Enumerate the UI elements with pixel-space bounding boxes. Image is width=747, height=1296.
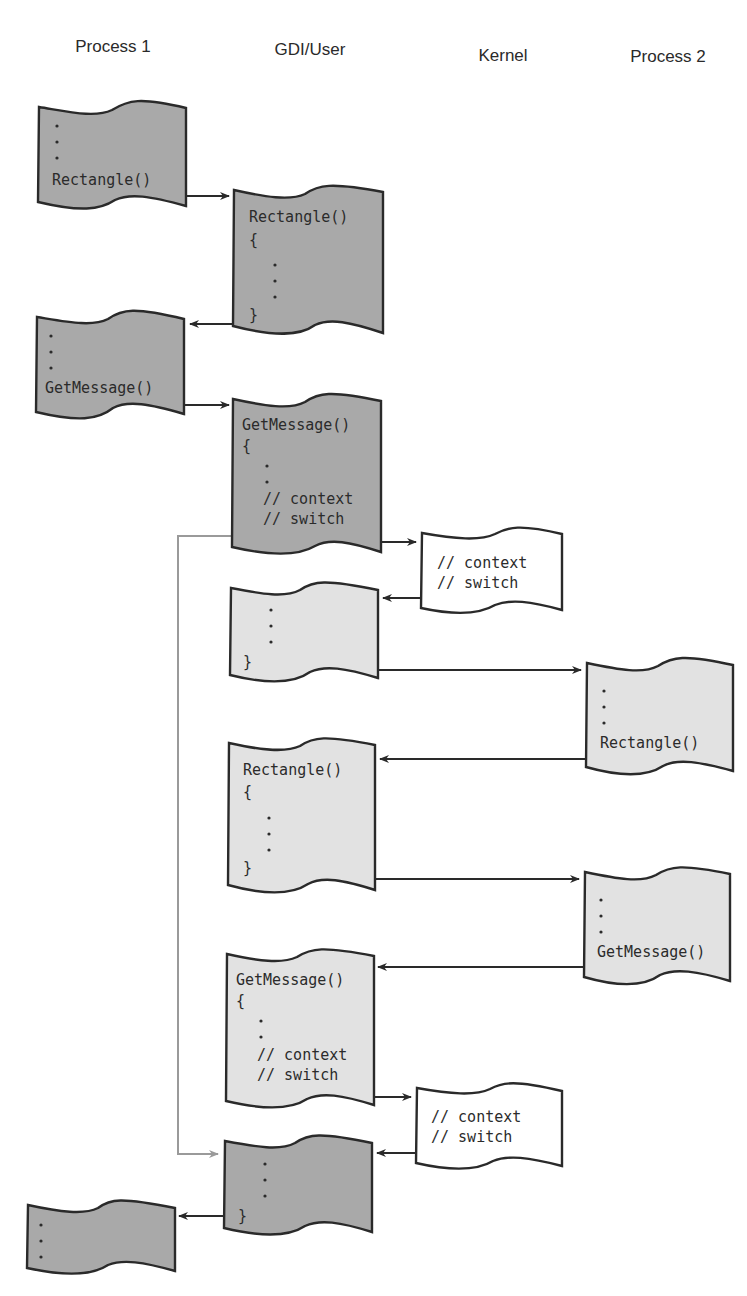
code-line: {: [242, 437, 251, 455]
code-line: Rectangle(): [52, 171, 151, 189]
code-line: // switch: [263, 510, 344, 528]
code-line: {: [249, 231, 258, 249]
code-line: Rectangle(): [243, 761, 342, 779]
code-line: }: [238, 1207, 247, 1225]
node-gdi-getmessage-2: GetMessage() { // context // switch: [226, 949, 374, 1107]
code-line: // context: [263, 490, 353, 508]
code-line: }: [243, 653, 252, 671]
column-header-kernel: Kernel: [478, 46, 527, 65]
code-line: }: [243, 859, 252, 877]
node-gdi-return-p2: }: [230, 582, 378, 681]
code-line: // context: [257, 1046, 347, 1064]
node-gdi-rectangle-2: Rectangle() { }: [228, 738, 375, 892]
code-line: GetMessage(): [597, 943, 705, 961]
node-p1-resume: [27, 1200, 175, 1273]
code-line: // switch: [257, 1066, 338, 1084]
code-line: {: [236, 992, 245, 1010]
code-line: // switch: [431, 1128, 512, 1146]
code-line: // context: [437, 554, 527, 572]
column-header-gdi-user: GDI/User: [275, 40, 346, 59]
code-line: // switch: [437, 574, 518, 592]
node-p1-call-rectangle: Rectangle(): [38, 101, 186, 209]
node-gdi-rectangle-1: Rectangle() { }: [233, 186, 383, 334]
code-line: }: [249, 306, 258, 324]
node-gdi-getmessage-1: GetMessage() { // context // switch: [232, 394, 381, 554]
node-p1-call-getmessage: GetMessage(): [36, 311, 184, 419]
gray-connector-arrow: [178, 536, 232, 1154]
code-line: Rectangle(): [600, 734, 699, 752]
code-line: GetMessage(): [236, 971, 344, 989]
code-line: {: [243, 783, 252, 801]
diagram-canvas: Process 1 GDI/User Kernel Process 2 Rect…: [0, 0, 747, 1296]
node-kernel-context-switch-1: // context // switch: [421, 528, 562, 613]
code-line: Rectangle(): [249, 208, 348, 226]
code-line: // context: [431, 1108, 521, 1126]
code-line: GetMessage(): [242, 416, 350, 434]
column-header-process-1: Process 1: [75, 37, 151, 56]
node-gdi-return-p1: }: [224, 1135, 372, 1234]
code-line: GetMessage(): [45, 379, 153, 397]
column-header-process-2: Process 2: [630, 47, 706, 66]
node-p2-call-rectangle: Rectangle(): [586, 658, 733, 774]
node-kernel-context-switch-2: // context // switch: [416, 1083, 562, 1169]
node-p2-call-getmessage: GetMessage(): [584, 867, 730, 984]
